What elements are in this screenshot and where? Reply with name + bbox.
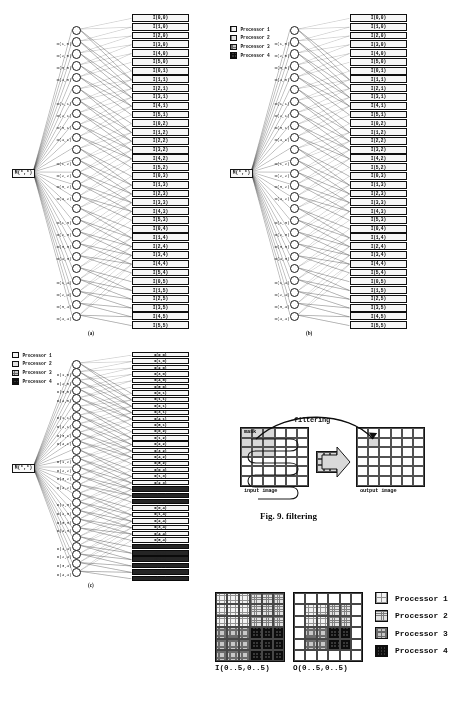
matrix-cell <box>250 616 261 627</box>
o-node <box>72 464 81 473</box>
i-node-box: I(4,0) <box>132 378 188 383</box>
matrix-cell <box>262 593 273 604</box>
legend-row: Processor 1 <box>12 352 52 358</box>
o-node-label: O(4,3) <box>57 256 72 261</box>
i-node-box: I(1,3) <box>132 181 188 189</box>
i-node-box: I(2,2) <box>350 137 406 145</box>
matrix-cell <box>227 627 238 638</box>
o-node-label: O(1,1) <box>57 101 72 106</box>
matrix-cell <box>317 593 328 604</box>
matrix-cell <box>227 639 238 650</box>
matrix-cell <box>328 650 339 661</box>
matrix-cell <box>317 627 328 638</box>
processor-legend: Processor 1Processor 2Processor 3Process… <box>12 352 52 387</box>
o-node-label: O(2,0) <box>57 381 72 386</box>
matrix-cell <box>250 593 261 604</box>
i-node-box: I(3,4) <box>132 251 188 259</box>
o-node-label: O(1,3) <box>57 220 72 225</box>
i-node-box: I(1,4) <box>350 233 406 241</box>
bottom-grids-section: I(0..5,0..5)O(0..5,0..5)Processor 1Proce… <box>215 590 460 685</box>
o-node <box>72 360 81 369</box>
matrix-cell <box>273 639 284 650</box>
matrix-cell <box>227 593 238 604</box>
o-node <box>290 192 299 201</box>
p2-swatch-icon <box>12 361 19 367</box>
o-node-label: O(4,3) <box>57 528 72 533</box>
i-node-box: I(5,2) <box>132 163 188 171</box>
i-node-box: I(5,0) <box>350 58 406 66</box>
i-node-box: I(5,4) <box>132 269 188 277</box>
i-node-box: I(2,0) <box>132 32 188 40</box>
o-node <box>72 169 81 178</box>
o-node-label: O(4,3) <box>275 256 290 261</box>
o-node-label: O(4,4) <box>57 572 72 577</box>
o-node <box>290 180 299 189</box>
matrix-cell <box>262 627 273 638</box>
o-node-label: O(1,0) <box>57 372 72 377</box>
i-node-box: I(5,2) <box>350 163 406 171</box>
o-node-label: O(2,0) <box>275 53 290 58</box>
matrix-cell <box>328 627 339 638</box>
i-node-box: I(5,0) <box>132 384 188 389</box>
o-node-label: O(2,3) <box>275 232 290 237</box>
matrix-grid-output <box>293 592 363 662</box>
o-node-label: O(1,2) <box>275 161 290 166</box>
i-node-box: I(1,0) <box>132 23 188 31</box>
o-node <box>72 542 81 551</box>
matrix-label: O(0..5,0..5) <box>293 664 348 672</box>
o-node <box>72 377 81 386</box>
i-node-box: I(1,3) <box>350 181 406 189</box>
i-node-box: I(2,5) <box>132 295 188 303</box>
i-node-box: I(5,3) <box>350 216 406 224</box>
matrix-cell <box>351 593 362 604</box>
o-node-label: O(4,0) <box>275 77 290 82</box>
i-node-box: I(4,1) <box>132 416 188 421</box>
i-node-box: I(5,1) <box>132 111 188 119</box>
matrix-cell <box>273 627 284 638</box>
o-node-label: O(3,4) <box>275 304 290 309</box>
i-node-box: I(3,3) <box>350 198 406 206</box>
matrix-cell <box>340 639 351 650</box>
matrix-cell <box>317 604 328 615</box>
legend-row: Processor 2 <box>375 610 448 622</box>
o-node-label: O(3,4) <box>57 304 72 309</box>
i-node-box: I(5,3) <box>132 216 188 224</box>
legend-row: Processor 3 <box>375 627 448 639</box>
i-node-box: I(4,3) <box>132 493 188 498</box>
i-node-box: I(2,5) <box>132 556 188 561</box>
input-image-label: input image <box>244 488 277 494</box>
matrix-cell <box>340 627 351 638</box>
o-node-label: O(2,4) <box>57 554 72 559</box>
o-node <box>72 61 81 70</box>
i-node-box: I(5,1) <box>350 111 406 119</box>
i-node-box: I(3,4) <box>132 525 188 530</box>
i-node-box: I(2,3) <box>132 190 188 198</box>
o-node-label: O(2,1) <box>275 113 290 118</box>
i-node-box: I(4,2) <box>132 154 188 162</box>
i-node-box: I(0,3) <box>132 467 188 472</box>
o-node <box>72 180 81 189</box>
i-node-box: I(1,1) <box>132 75 188 83</box>
i-node-box: I(4,3) <box>132 207 188 215</box>
i-node-box: I(1,5) <box>132 550 188 555</box>
p3-swatch-icon <box>375 627 388 639</box>
mask-label: mask <box>244 429 256 435</box>
matrix-cell <box>305 627 316 638</box>
legend-label: Processor 3 <box>22 370 51 375</box>
p1-swatch-icon <box>375 592 388 604</box>
o-node <box>290 169 299 178</box>
i-node-box: I(3,5) <box>132 304 188 312</box>
o-node-label: O(4,4) <box>275 316 290 321</box>
i-node-box: I(4,2) <box>132 454 188 459</box>
matrix-cell <box>305 616 316 627</box>
i-node-box: I(5,5) <box>350 321 406 329</box>
p1-swatch-icon <box>12 352 19 358</box>
i-node-box: I(3,5) <box>350 304 406 312</box>
i-node-box: I(1,3) <box>132 473 188 478</box>
matrix-cell <box>294 616 305 627</box>
o-node <box>72 438 81 447</box>
o-node <box>290 61 299 70</box>
i-node-box: I(1,0) <box>132 358 188 363</box>
figure-caption: Fig. 9. filtering <box>260 511 317 521</box>
o-node-label: O(1,3) <box>275 220 290 225</box>
